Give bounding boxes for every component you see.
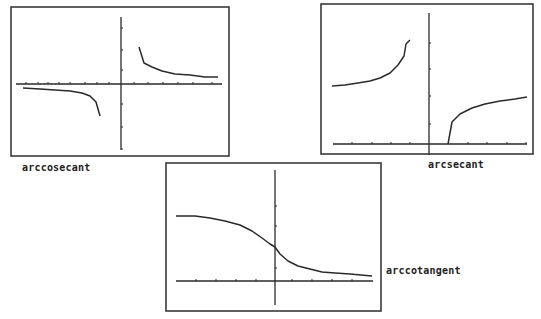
graph-frame (166, 163, 381, 311)
label-arccotangent: arccotangent (386, 265, 461, 276)
label-arcsecant: arcsecant (428, 159, 484, 170)
curve-arccot (176, 216, 372, 276)
label-arccosecant: arccosecant (22, 162, 90, 173)
